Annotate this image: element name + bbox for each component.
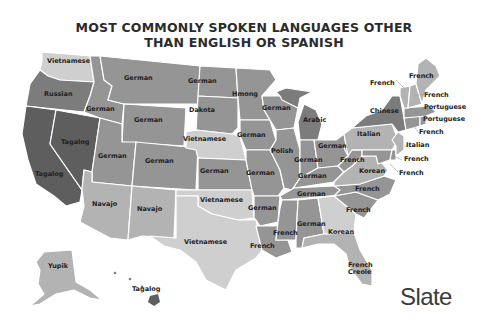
label-wy: German xyxy=(134,116,163,124)
label-mi: Arabic xyxy=(303,116,326,124)
state-co[interactable] xyxy=(132,142,198,190)
label-ma: Portuguese xyxy=(424,103,466,111)
label-or: Russian xyxy=(44,90,73,98)
label-nj: Italian xyxy=(406,141,429,149)
label-la: French xyxy=(250,242,275,250)
slate-logo: Slate xyxy=(400,283,452,311)
label-ar: German xyxy=(248,204,277,212)
label-ms: French xyxy=(273,229,298,237)
label-sc: French xyxy=(346,206,371,214)
label-de: French xyxy=(404,155,429,163)
label-mt: German xyxy=(124,74,153,82)
label-ny: Chinese xyxy=(370,107,399,115)
label-il: Polish xyxy=(271,147,293,155)
label-id: German xyxy=(86,105,115,113)
label-ut: German xyxy=(98,152,127,160)
label-tn: German xyxy=(297,190,326,198)
state-fl[interactable] xyxy=(302,232,372,286)
label-ia: German xyxy=(237,131,266,139)
state-wy[interactable] xyxy=(122,104,186,146)
label-wi: German xyxy=(262,104,291,112)
label-nm: Navajo xyxy=(137,205,162,213)
label-mn: Hmong xyxy=(232,90,258,98)
state-hi[interactable] xyxy=(148,294,160,306)
us-map xyxy=(0,0,488,331)
label-ct: French xyxy=(419,128,444,136)
state-ak[interactable] xyxy=(30,250,102,306)
label-in: German xyxy=(294,156,323,164)
label-al: German xyxy=(297,220,326,228)
label-pa: Italian xyxy=(357,130,380,138)
label-me: French xyxy=(409,72,434,80)
label-sd: Dakota xyxy=(189,106,215,114)
label-ca: Tagalog xyxy=(35,170,63,178)
label-tx: Vietnamese xyxy=(184,238,227,246)
label-oh: German xyxy=(318,142,347,150)
label-az: Navajo xyxy=(92,200,117,208)
label-va: Korean xyxy=(359,167,385,175)
state-nm[interactable] xyxy=(128,186,176,240)
label-mo: German xyxy=(246,169,275,177)
label-ks: German xyxy=(200,167,229,175)
label-fl-2: Creole xyxy=(348,268,372,276)
label-wv: French xyxy=(340,156,365,164)
label-nc: French xyxy=(355,185,380,193)
hi-island xyxy=(129,278,132,281)
label-ga: Korean xyxy=(328,228,354,236)
label-ri: Portuguese xyxy=(423,115,465,123)
label-ne: Vietnamese xyxy=(183,135,226,143)
label-nv: Tagalog xyxy=(61,138,89,146)
label-wa: Vietnamese xyxy=(47,57,90,65)
label-co: German xyxy=(145,157,174,165)
label-md: French xyxy=(399,169,424,177)
label-ky: German xyxy=(298,172,327,180)
label-vt: French xyxy=(370,79,395,87)
hi-island xyxy=(114,272,117,275)
label-nh: French xyxy=(424,91,449,99)
label-ok: Vietnamese xyxy=(200,196,243,204)
label-hi: Tagalog xyxy=(132,285,160,293)
state-sd[interactable] xyxy=(196,96,238,134)
label-ak: Yupik xyxy=(48,262,68,270)
label-nd: German xyxy=(188,77,217,85)
